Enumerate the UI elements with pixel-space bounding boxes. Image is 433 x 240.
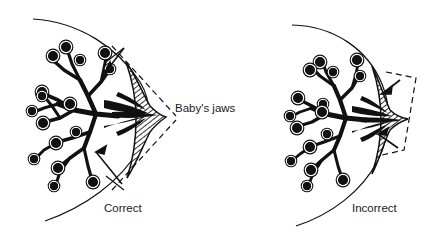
breastfeeding-latch-figure: Correct Baby's jaws bbox=[0, 0, 433, 240]
callout-babys-jaws: Baby's jaws bbox=[175, 102, 236, 114]
panel-caption-incorrect: Incorrect bbox=[352, 202, 398, 214]
panel-caption-correct: Correct bbox=[104, 202, 143, 214]
